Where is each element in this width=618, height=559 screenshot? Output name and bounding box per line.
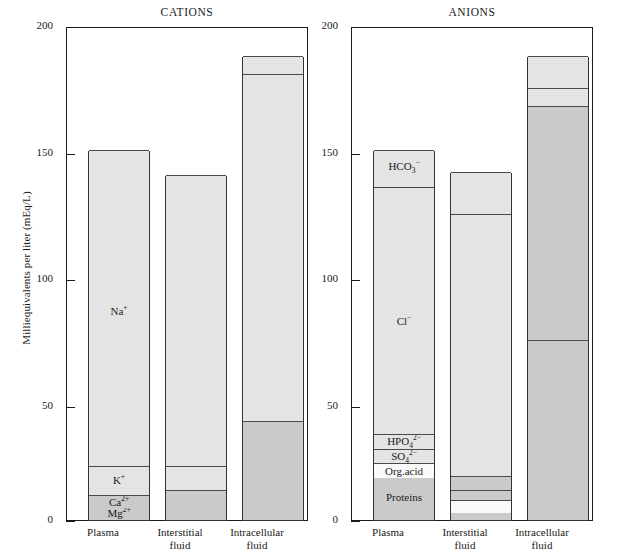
segment-so4-plasma: SO42− [374,449,434,464]
segment-k-interstitial [166,466,226,491]
segment-k-plasma: K+ [89,466,149,496]
segment-label: Proteins [374,492,434,503]
segment-hco3-interstitial [451,172,511,214]
bar-anions-interstitial[interactable] [450,173,512,521]
x-label-intracellular-cations: Intracellular fluid [222,526,292,553]
segment-orgacid-interstitial [451,500,511,512]
y-tick-label: 150 [37,146,54,158]
y-tick-mark [66,154,75,155]
bar-cations-intracellular[interactable] [242,57,304,521]
panel-title-cations: CATIONS [66,6,308,18]
y-tick-label: 0 [48,513,54,525]
y-tick-label: 0 [333,513,339,525]
segment-mg-plasma: Mg2+ [89,508,149,520]
segment-ca-plasma: Ca2+ [89,495,149,507]
x-label-intracellular-anions: Intracellular fluid [507,526,577,553]
panel-title-anions: ANIONS [351,6,593,18]
segment-hpo4-intracellular [528,106,588,340]
segment-proteins-interstitial [451,513,511,520]
y-tick-mark [351,521,360,522]
segment-hco3-plasma: HCO3− [374,150,434,187]
y-tick-mark [66,27,75,28]
segment-label: Cl− [374,316,434,327]
segment-proteins-intracellular [528,355,588,520]
y-tick-label: 150 [322,146,339,158]
x-label-interstitial-anions: Interstitial fluid [430,526,500,553]
segment-label: Mg2+ [89,508,149,519]
bar-anions-intracellular[interactable] [527,57,589,521]
segment-na-intracellular [243,74,303,422]
y-tick-label: 100 [322,272,339,284]
segment-proteins-plasma: Proteins [374,478,434,520]
segment-label: SO42− [374,451,434,462]
panel-anions: ANIONS 200 150 100 50 0 Proteins [351,27,593,521]
segment-label: HPO42− [374,436,434,447]
segment-label: HCO3− [374,161,434,172]
segment-na-plasma: Na+ [89,150,149,466]
y-tick-mark [66,407,75,408]
x-label-plasma-cations: Plasma [68,526,138,539]
segment-label: Org.acid [374,466,434,477]
bar-anions-plasma[interactable]: Proteins Org.acid SO42− HPO42− Cl− HCO3− [373,151,435,521]
segment-so4-interstitial [451,490,511,500]
segment-mg-intracellular [243,421,303,428]
figure-electrolyte-composition: Milliequivalents per liter (mEq/L) CATIO… [0,0,618,559]
segment-mg-interstitial [166,503,226,520]
y-tick-mark [351,407,360,408]
y-tick-label: 100 [37,272,54,284]
segment-label: K+ [89,475,149,486]
segment-ca-interstitial [166,490,226,502]
segment-orgacid-intracellular [528,340,588,355]
segment-hpo4-plasma: HPO42− [374,434,434,449]
y-tick-mark [351,154,360,155]
y-tick-label: 50 [327,399,338,411]
y-axis-title: Milliequivalents per liter (mEq/L) [20,138,32,398]
segment-hpo4-interstitial [451,476,511,491]
y-tick-label: 200 [37,19,54,31]
x-label-interstitial-cations: Interstitial fluid [145,526,215,553]
y-tick-mark [66,280,75,281]
segment-hco3-intracellular [528,56,588,88]
y-tick-mark [351,280,360,281]
segment-cl-plasma: Cl− [374,187,434,434]
segment-orgacid-plasma: Org.acid [374,463,434,478]
segment-cl-interstitial [451,214,511,476]
segment-na-interstitial [166,175,226,466]
bar-cations-plasma[interactable]: Mg2+ Ca2+ K+ Na+ [88,151,150,521]
segment-other-intracellular [243,56,303,73]
y-tick-mark [66,521,75,522]
segment-label: Na+ [89,306,149,317]
segment-label: Ca2+ [89,497,149,508]
segment-cl-intracellular [528,88,588,105]
y-tick-label: 50 [42,399,53,411]
bar-cations-interstitial[interactable] [165,176,227,521]
segment-k-intracellular [243,429,303,520]
panel-cations: CATIONS 200 150 100 50 0 Mg2+ [66,27,308,521]
y-tick-label: 200 [322,19,339,31]
x-label-plasma-anions: Plasma [353,526,423,539]
y-tick-mark [351,27,360,28]
